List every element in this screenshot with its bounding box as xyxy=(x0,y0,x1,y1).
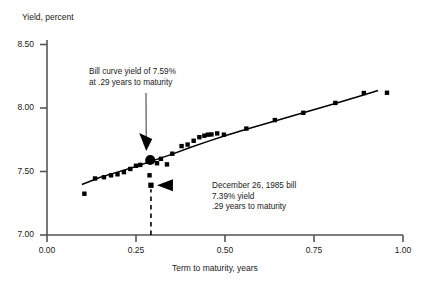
data-point-marker xyxy=(159,157,163,161)
y-tick-label-8.00: 8.00 xyxy=(4,102,34,112)
data-point-marker xyxy=(109,173,113,177)
data-point-marker xyxy=(165,162,169,166)
data-point-marker xyxy=(179,144,183,148)
data-point-marker xyxy=(362,91,366,95)
data-point-marker xyxy=(244,126,248,130)
data-point-marker xyxy=(128,167,132,171)
data-points xyxy=(82,91,389,196)
data-point-marker xyxy=(301,111,305,115)
annotation-leaders xyxy=(139,93,173,191)
data-point-marker xyxy=(122,170,126,174)
y-tick-label-7.00: 7.00 xyxy=(4,229,34,239)
data-point-marker xyxy=(134,164,138,168)
y-tick-label-7.50: 7.50 xyxy=(4,166,34,176)
data-point-marker xyxy=(102,175,106,179)
december-bill-arrowhead xyxy=(157,179,173,191)
data-point-marker xyxy=(82,192,86,196)
x-tick-label-0.25: 0.25 xyxy=(116,245,156,255)
data-point-marker xyxy=(215,131,219,135)
chart-axes xyxy=(47,40,403,235)
december-bill-point xyxy=(148,183,153,188)
data-point-marker xyxy=(333,101,337,105)
x-tick-label-0.00: 0.00 xyxy=(27,245,67,255)
data-point-marker xyxy=(185,142,189,146)
data-point-marker xyxy=(115,172,119,176)
y-tick-label-8.50: 8.50 xyxy=(4,39,34,49)
x-tick-label-0.75: 0.75 xyxy=(294,245,334,255)
y-axis-ticks xyxy=(40,45,47,236)
data-point-marker xyxy=(222,132,226,136)
x-tick-label-0.50: 0.50 xyxy=(205,245,245,255)
data-point-marker xyxy=(191,139,195,143)
x-axis-ticks xyxy=(47,235,403,242)
data-point-marker xyxy=(155,161,159,165)
data-point-marker xyxy=(197,135,201,139)
data-point-marker xyxy=(93,176,97,180)
data-point-marker xyxy=(385,91,389,95)
bill-curve-yield-point xyxy=(145,155,155,165)
data-point-marker xyxy=(138,163,142,167)
data-point-marker xyxy=(170,152,174,156)
data-point-marker xyxy=(273,118,277,122)
x-tick-label-1.00: 1.00 xyxy=(383,245,423,255)
data-point-marker xyxy=(147,173,151,177)
data-point-marker xyxy=(209,132,213,136)
